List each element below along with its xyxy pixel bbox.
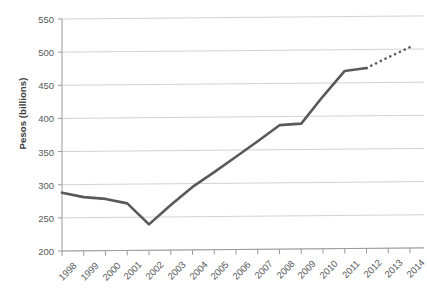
gridline [62, 49, 424, 52]
series-line-actual [62, 68, 367, 224]
series-line-projected [367, 47, 411, 68]
gridlines [62, 16, 424, 251]
gridline [62, 115, 424, 118]
gridline [62, 182, 424, 185]
gridline [62, 82, 424, 85]
plot-area [0, 0, 427, 295]
x-axis-line [62, 248, 424, 251]
line-chart: Pesos (billions) 20025030035040045050055… [0, 0, 427, 295]
gridline [62, 215, 424, 218]
gridline [62, 16, 424, 19]
